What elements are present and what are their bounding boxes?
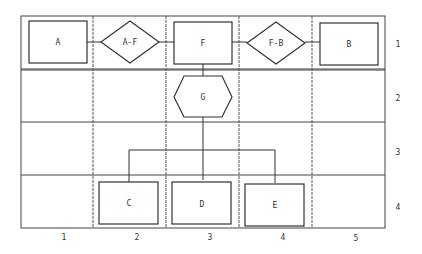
row-label-3: 3 (396, 148, 401, 157)
node-A-F[interactable]: A-F (101, 21, 159, 63)
node-E-label: E (273, 201, 278, 210)
node-F-label: F (201, 39, 206, 48)
diagram-canvas: A A-F F F-B B G C D E 1 2 3 4 5 1 (0, 0, 422, 254)
node-C-label: C (127, 199, 132, 208)
node-F[interactable]: F (174, 22, 232, 64)
row-label-2: 2 (396, 94, 401, 103)
node-A[interactable]: A (29, 21, 87, 63)
node-E[interactable]: E (245, 184, 304, 226)
node-F-B[interactable]: F-B (247, 22, 305, 64)
col-label-1: 1 (62, 233, 67, 242)
col-label-2: 2 (135, 233, 140, 242)
node-D[interactable]: D (172, 182, 231, 224)
node-A-F-label: A-F (123, 38, 138, 47)
row-label-4: 4 (396, 203, 401, 212)
node-G[interactable]: G (174, 76, 232, 117)
col-label-5: 5 (354, 234, 359, 243)
node-F-B-label: F-B (269, 39, 284, 48)
node-D-label: D (200, 200, 205, 209)
node-G-label: G (201, 93, 206, 102)
node-C[interactable]: C (99, 182, 158, 224)
row-label-1: 1 (396, 40, 401, 49)
node-B[interactable]: B (320, 23, 378, 65)
column-labels: 1 2 3 4 5 (62, 233, 359, 243)
node-B-label: B (347, 40, 352, 49)
col-label-4: 4 (281, 233, 286, 242)
col-label-3: 3 (208, 233, 213, 242)
row-labels: 1 2 3 4 (396, 40, 401, 212)
node-A-label: A (56, 38, 61, 47)
